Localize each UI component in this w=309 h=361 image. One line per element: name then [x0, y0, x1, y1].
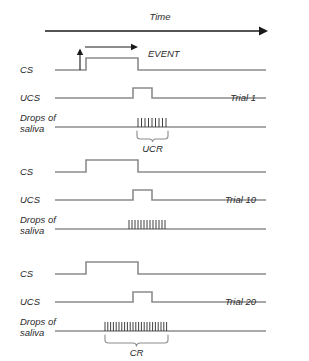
saliva-ticks-1 [138, 118, 166, 127]
trial-label-1: Trial 1 [230, 92, 256, 103]
row-label-drops-20b: saliva [20, 327, 44, 338]
cs-onset-marker-1 [77, 49, 83, 71]
row-label-ucs-1: UCS [20, 92, 41, 103]
row-label-drops-20a: Drops of [20, 316, 57, 327]
time-axis-group [45, 27, 268, 36]
ucr-brace [137, 131, 168, 142]
trial-label-10: Trial 10 [225, 194, 257, 205]
row-label-ucs-10: UCS [20, 194, 41, 205]
row-label-drops-1b: saliva [20, 123, 44, 134]
row-label-drops-1a: Drops of [20, 112, 57, 123]
row-label-cs-20: CS [20, 268, 34, 279]
row-label-drops-10b: saliva [20, 225, 44, 236]
row-label-ucs-20: UCS [20, 296, 41, 307]
cr-brace [105, 335, 168, 347]
row-label-cs-1: CS [20, 64, 34, 75]
diagram-canvas: Time CS EVENT UCS Trial 1 Drops of s [0, 0, 309, 361]
saliva-ticks-10 [129, 220, 165, 229]
event-label-1: EVENT [148, 48, 181, 59]
cs-trace-1 [55, 58, 266, 70]
cs-trace-10 [55, 160, 266, 172]
cs-interval-arrow-1 [85, 44, 138, 50]
time-axis-label: Time [149, 11, 170, 22]
saliva-ticks-20 [105, 322, 167, 331]
cr-label: CR [130, 347, 144, 358]
ucr-label: UCR [142, 143, 163, 154]
row-label-drops-10a: Drops of [20, 214, 57, 225]
trial-block-1: CS EVENT UCS Trial 1 Drops of saliva [20, 44, 266, 154]
row-label-cs-10: CS [20, 166, 34, 177]
time-axis-arrowhead [259, 27, 268, 36]
trial-label-20: Trial 20 [225, 296, 257, 307]
trial-block-10: CS UCS Trial 10 Drops of saliva [20, 160, 266, 236]
trial-block-20: CS UCS Trial 20 Drops of saliva [20, 262, 266, 358]
conditioning-timing-diagram: Time CS EVENT UCS Trial 1 Drops of s [0, 0, 309, 361]
cs-trace-20 [55, 262, 266, 274]
